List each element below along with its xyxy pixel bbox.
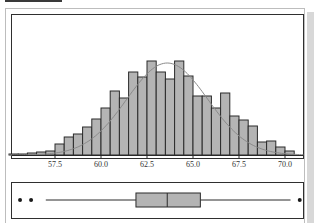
x-tick-label: 67.5	[232, 160, 246, 169]
histogram-bar	[110, 91, 119, 155]
x-tick-label: 70.0	[278, 160, 292, 169]
histogram-bar	[101, 108, 110, 155]
histogram-bar	[248, 126, 257, 155]
histogram-bar	[175, 61, 184, 155]
histogram-bars	[9, 61, 294, 155]
histogram-bar	[156, 72, 165, 155]
x-tick-label: 62.5	[140, 160, 154, 169]
histogram-bar	[230, 116, 239, 155]
histogram-bar	[257, 142, 266, 155]
x-tick-label: 60.0	[94, 160, 108, 169]
x-axis-ticks: 57.560.062.565.067.570.0	[48, 155, 292, 169]
histogram-bar	[64, 137, 73, 155]
histogram-bar	[92, 119, 101, 155]
histogram-bar	[165, 79, 174, 155]
histogram-bar	[202, 96, 211, 155]
outlier-point	[18, 198, 22, 202]
iqr-box	[136, 193, 200, 207]
outlier-point	[29, 198, 33, 202]
x-tick-label: 65.0	[186, 160, 200, 169]
histogram-bar	[147, 61, 156, 155]
histogram-bar	[267, 141, 276, 155]
histogram-bar	[221, 93, 230, 155]
histogram-bar	[73, 134, 82, 155]
histogram-bar	[184, 76, 193, 155]
outlier-point	[298, 198, 302, 202]
boxplot	[18, 193, 302, 207]
histogram-bar	[55, 144, 64, 155]
chart-canvas: 57.560.062.565.067.570.0	[0, 0, 319, 223]
histogram-bar	[83, 127, 92, 155]
histogram-bar	[129, 72, 138, 155]
histogram-bar	[193, 96, 202, 155]
x-tick-label: 57.5	[48, 160, 62, 169]
histogram-bar	[138, 77, 147, 155]
